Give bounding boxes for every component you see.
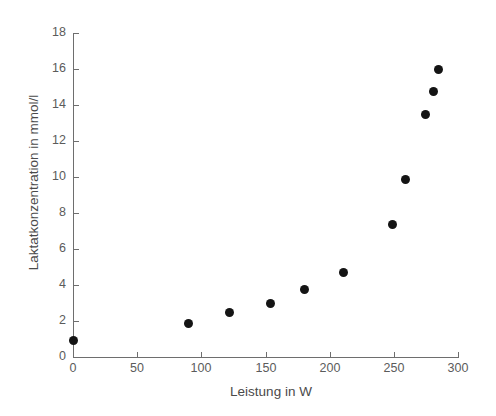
data-point bbox=[434, 65, 443, 74]
data-point bbox=[69, 336, 78, 345]
data-point bbox=[184, 319, 193, 328]
x-tick-label: 300 bbox=[438, 362, 478, 375]
x-axis-label: Leistung in W bbox=[0, 384, 496, 399]
data-point bbox=[300, 285, 309, 294]
x-tick-label: 0 bbox=[53, 362, 93, 375]
y-tick-label: 2 bbox=[36, 314, 66, 327]
data-point bbox=[225, 308, 234, 317]
chart-figure: 024681012141618 050100150200250300 Leist… bbox=[0, 0, 496, 416]
data-point bbox=[429, 87, 438, 96]
y-tick-label: 8 bbox=[36, 206, 66, 219]
y-tick-mark bbox=[74, 357, 79, 358]
y-tick-label: 14 bbox=[36, 98, 66, 111]
data-point bbox=[421, 110, 430, 119]
data-point bbox=[401, 175, 410, 184]
y-tick-label: 10 bbox=[36, 170, 66, 183]
data-point bbox=[266, 299, 275, 308]
x-tick-label: 100 bbox=[181, 362, 221, 375]
y-tick-label: 12 bbox=[36, 134, 66, 147]
y-tick-label: 4 bbox=[36, 278, 66, 291]
data-point bbox=[339, 268, 348, 277]
y-tick-label: 6 bbox=[36, 242, 66, 255]
x-tick-label: 250 bbox=[374, 362, 414, 375]
y-tick-label: 16 bbox=[36, 62, 66, 75]
plot-area bbox=[73, 33, 458, 357]
x-tick-mark bbox=[458, 352, 459, 357]
x-tick-label: 150 bbox=[246, 362, 286, 375]
x-axis-line bbox=[73, 357, 459, 358]
x-tick-label: 50 bbox=[117, 362, 157, 375]
x-tick-label: 200 bbox=[310, 362, 350, 375]
y-axis-label: Laktatkonzentration in mmol/l bbox=[26, 53, 41, 313]
data-point bbox=[388, 220, 397, 229]
y-tick-label: 18 bbox=[36, 26, 66, 39]
